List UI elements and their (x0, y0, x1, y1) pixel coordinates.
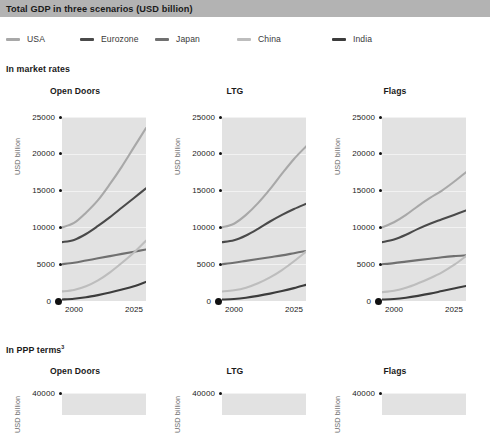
legend-swatch-icon (332, 38, 346, 41)
y-axis-tick: 5000 (324, 259, 382, 269)
y-axis-tick-marker (215, 298, 222, 305)
chart-title: LTG (164, 366, 306, 376)
y-axis-tick: 15000 (4, 186, 62, 196)
section-heading-label: In PPP terms (6, 345, 61, 355)
y-axis-tick: 15000 (164, 186, 222, 196)
y-axis-title: USD billion (333, 396, 342, 433)
chart-panel-flags: FlagsUSD billion050001000015000200002500… (324, 86, 476, 319)
y-axis-tick: 10000 (324, 222, 382, 232)
y-axis-tick-marker (379, 226, 382, 229)
y-axis-tick-label: 40000 (32, 389, 55, 398)
y-axis-tick-marker (219, 226, 222, 229)
series-layer (382, 117, 466, 301)
y-axis-tick: 40000 (324, 388, 382, 398)
y-axis-tick-marker (219, 263, 222, 266)
y-axis-tick-label: 25000 (32, 113, 55, 122)
chart-panel-ltg: LTGUSD billion40000 (164, 366, 316, 433)
legend-label: USA (27, 34, 45, 44)
y-axis-tick-label: 15000 (352, 186, 375, 195)
page-title: Total GDP in three scenarios (USD billio… (0, 4, 193, 14)
chart-title: LTG (164, 86, 306, 96)
plot-area (62, 393, 146, 415)
chart-title: Open Doors (4, 86, 146, 96)
y-axis-tick-label: 0 (366, 297, 371, 306)
y-axis-tick-marker (59, 189, 62, 192)
y-axis-tick-marker (59, 263, 62, 266)
y-axis-tick-label: 40000 (192, 389, 215, 398)
series-line-usa (382, 172, 466, 227)
plot-area (222, 117, 306, 301)
chart-panel-flags: FlagsUSD billion40000 (324, 366, 476, 433)
chart-panel-ltg: LTGUSD billion05000100001500020000250002… (164, 86, 316, 319)
legend-label: Eurozone (101, 34, 139, 44)
y-axis-tick: 15000 (324, 186, 382, 196)
y-axis-tick: 20000 (4, 149, 62, 159)
y-axis-tick-marker (375, 298, 382, 305)
x-axis-tick-label: 2025 (285, 305, 303, 314)
y-axis-tick-marker (55, 298, 62, 305)
y-axis-tick: 40000 (4, 388, 62, 398)
series-line-japan (382, 255, 466, 264)
chart-legend: USAEurozoneJapanChinaIndia (6, 31, 484, 47)
plot-area (382, 393, 466, 415)
series-line-china (62, 241, 146, 292)
chart-title: Flags (324, 86, 466, 96)
y-axis-tick-marker (379, 189, 382, 192)
y-axis-tick-label: 25000 (192, 113, 215, 122)
legend-label: China (258, 34, 281, 44)
gridline (62, 393, 146, 394)
y-axis-tick: 0 (4, 296, 62, 306)
y-axis-tick-marker (219, 152, 222, 155)
y-axis-tick: 25000 (164, 112, 222, 122)
plot-area (382, 117, 466, 301)
y-axis-tick: 40000 (164, 388, 222, 398)
y-axis-tick-label: 40000 (352, 389, 375, 398)
y-axis-tick-label: 15000 (192, 186, 215, 195)
y-axis-tick-label: 20000 (192, 149, 215, 158)
y-axis-tick-label: 0 (46, 297, 51, 306)
chart-panel-open-doors: Open DoorsUSD billion40000 (4, 366, 156, 433)
x-axis-tick-label: 2025 (125, 305, 143, 314)
series-line-eurozone (382, 210, 466, 242)
legend-swatch-icon (6, 38, 20, 41)
gridline (222, 393, 306, 394)
header-bar: Total GDP in three scenarios (USD billio… (0, 0, 490, 17)
y-axis-tick: 10000 (4, 222, 62, 232)
y-axis-tick: 10000 (164, 222, 222, 232)
y-axis-tick-marker (219, 116, 222, 119)
x-axis-tick-label: 2000 (65, 305, 83, 314)
y-axis-tick-marker (59, 152, 62, 155)
y-axis-tick: 20000 (164, 149, 222, 159)
x-axis-tick-label: 2025 (445, 305, 463, 314)
series-line-usa (222, 146, 306, 227)
y-axis-tick-label: 5000 (197, 260, 215, 269)
y-axis-tick-label: 20000 (32, 149, 55, 158)
y-axis-tick: 5000 (4, 259, 62, 269)
legend-swatch-icon (80, 38, 94, 41)
series-layer (62, 117, 146, 301)
y-axis-title: USD billion (13, 396, 22, 433)
legend-label: India (353, 34, 372, 44)
series-line-china (382, 256, 466, 292)
y-axis-tick-marker (379, 392, 382, 395)
y-axis-tick-marker (59, 116, 62, 119)
legend-item-usa: USA (6, 31, 45, 47)
legend-item-japan: Japan (155, 31, 200, 47)
series-line-india (222, 285, 306, 300)
chart-title: Open Doors (4, 366, 146, 376)
legend-item-eurozone: Eurozone (80, 31, 139, 47)
x-axis-tick-label: 2000 (385, 305, 403, 314)
chart-title: Flags (324, 366, 466, 376)
y-axis-tick-label: 10000 (192, 223, 215, 232)
y-axis-tick: 20000 (324, 149, 382, 159)
y-axis-tick-marker (59, 226, 62, 229)
series-line-eurozone (62, 188, 146, 242)
y-axis-tick: 0 (164, 296, 222, 306)
series-layer (222, 117, 306, 301)
y-axis-tick-marker (219, 189, 222, 192)
y-axis-title: USD billion (173, 396, 182, 433)
series-line-usa (62, 128, 146, 227)
chart-panel-open-doors: Open DoorsUSD billion0500010000150002000… (4, 86, 156, 319)
y-axis-tick: 5000 (164, 259, 222, 269)
series-line-india (382, 286, 466, 300)
